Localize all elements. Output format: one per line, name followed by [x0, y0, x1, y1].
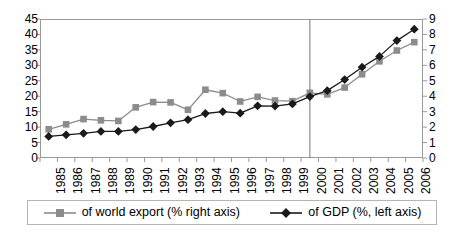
x-axis-tick-1990: 1990 [142, 167, 154, 194]
legend-item-world-export[interactable]: of world export (% right axis) [43, 206, 240, 219]
chart-legend: of world export (% right axis) of GDP (%… [27, 200, 437, 225]
right-axis-tick-1: 1 [429, 137, 453, 149]
right-axis-tick-2: 2 [429, 121, 453, 133]
x-axis-tick-1991: 1991 [159, 167, 171, 194]
left-axis-tick-15: 15 [0, 106, 38, 118]
right-axis-tick-9: 9 [429, 13, 453, 25]
x-axis-tick-2001: 2001 [333, 167, 345, 194]
left-axis-tick-5: 5 [0, 137, 38, 149]
x-axis-tick-1994: 1994 [211, 167, 223, 194]
x-axis-tick-2000: 2000 [316, 167, 328, 194]
left-axis-tick-30: 30 [0, 59, 38, 71]
x-axis-tick-2002: 2002 [351, 167, 363, 194]
left-axis-tick-35: 35 [0, 44, 38, 56]
right-axis-tick-3: 3 [429, 106, 453, 118]
x-axis-tick-2006: 2006 [420, 167, 432, 194]
chart-plot-svg [0, 0, 464, 234]
left-axis-tick-40: 40 [0, 28, 38, 40]
x-axis-tick-1989: 1989 [124, 167, 136, 194]
x-axis-tick-1985: 1985 [55, 167, 67, 194]
x-axis-tick-1988: 1988 [107, 167, 119, 194]
legend-item-gdp[interactable]: of GDP (%, left axis) [269, 206, 421, 219]
x-axis-tick-2004: 2004 [385, 167, 397, 194]
x-axis-tick-1995: 1995 [229, 167, 241, 194]
right-axis-tick-0: 0 [429, 152, 453, 164]
x-axis-tick-2005: 2005 [403, 167, 415, 194]
x-axis-tick-1998: 1998 [281, 167, 293, 194]
x-axis-tick-1993: 1993 [194, 167, 206, 194]
left-axis-tick-25: 25 [0, 75, 38, 87]
legend-diamond-marker-icon [269, 207, 303, 219]
left-axis-tick-0: 0 [0, 152, 38, 164]
chart-container: 051015202530354045 0123456789 1985198619… [0, 0, 464, 234]
left-axis-tick-45: 45 [0, 13, 38, 25]
x-axis-tick-1986: 1986 [72, 167, 84, 194]
legend-label-world-export: of world export (% right axis) [82, 206, 240, 219]
x-axis-tick-1996: 1996 [246, 167, 258, 194]
right-axis-tick-8: 8 [429, 28, 453, 40]
left-axis-tick-10: 10 [0, 121, 38, 133]
legend-square-marker-icon [43, 207, 77, 219]
x-axis-tick-1999: 1999 [298, 167, 310, 194]
x-axis-tick-1992: 1992 [177, 167, 189, 194]
x-axis-tick-1997: 1997 [264, 167, 276, 194]
right-axis-tick-7: 7 [429, 44, 453, 56]
right-axis-tick-4: 4 [429, 90, 453, 102]
right-axis-tick-5: 5 [429, 75, 453, 87]
left-axis-tick-20: 20 [0, 90, 38, 102]
right-axis-tick-6: 6 [429, 59, 453, 71]
legend-label-gdp: of GDP (%, left axis) [308, 206, 421, 219]
x-axis-tick-1987: 1987 [90, 167, 102, 194]
x-axis-tick-2003: 2003 [368, 167, 380, 194]
